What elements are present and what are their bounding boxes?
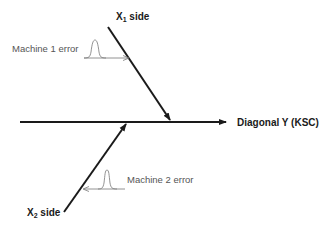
diagonal-y-label: Diagonal Y (KSC) [237,117,319,128]
x1-branch-line [108,27,170,120]
x1-side-label: X1 side [116,11,150,23]
machine1-error-label: Machine 1 error [12,43,79,54]
gaussian-curve-icon [98,170,117,189]
machine2-error-distribution [84,170,125,189]
x2-side-label: X2 side [27,207,61,219]
machine2-error-label: Machine 2 error [127,174,194,185]
machine1-error-distribution [84,40,128,58]
fishbone-diagram: X1 side X2 side Diagonal Y (KSC) Machine… [0,0,334,229]
x2-branch-line [64,124,126,212]
gaussian-curve-icon [84,40,106,58]
